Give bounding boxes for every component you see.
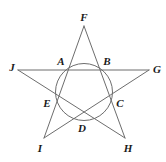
geometry-figure: F J G A B E C D I H [0,0,166,162]
point-label-J: J [9,62,15,73]
point-label-B: B [103,56,110,67]
point-label-C: C [116,98,123,109]
point-label-D: D [78,123,86,134]
star-edge-J-H [18,70,125,138]
point-label-E: E [43,98,50,109]
point-label-G: G [153,64,161,75]
point-label-F: F [80,12,87,23]
star-edge-F-H [84,26,125,138]
star-edge-G-I [44,70,149,138]
point-label-H: H [124,143,133,154]
point-label-I: I [38,143,42,154]
point-label-A: A [57,56,64,67]
pentagram-diagram [0,0,166,162]
